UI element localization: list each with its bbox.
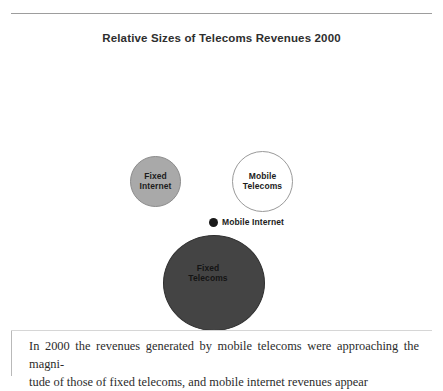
- figure-caption: In 2000 the revenues generated by mobile…: [29, 337, 419, 391]
- bubble-label-line: Telecoms: [188, 273, 227, 283]
- caption-line: In 2000 the revenues generated by mobile…: [29, 339, 419, 371]
- bubble-label-fixed-telecoms: Fixed Telecoms: [188, 264, 227, 283]
- caption-line: tude of those of fixed telecoms, and mob…: [29, 373, 419, 391]
- chart-frame: Relative Sizes of Telecoms Revenues 2000…: [11, 13, 432, 331]
- bubble-label-line: Fixed: [144, 171, 167, 181]
- bubble-label-line: Telecoms: [243, 181, 282, 191]
- bubble-mobile-internet: [209, 218, 218, 227]
- bubble-label-line: Mobile: [249, 171, 277, 181]
- bubble-fixed-internet: Fixed Internet: [130, 156, 181, 207]
- bubble-plot-area: Fixed Internet Mobile Telecoms Mobile In…: [11, 14, 432, 332]
- bubble-mobile-telecoms: Mobile Telecoms: [232, 151, 293, 212]
- bubble-label-fixed-internet: Fixed Internet: [140, 172, 172, 191]
- bubble-label-mobile-internet: Mobile Internet: [222, 217, 284, 227]
- bubble-label-line: Fixed: [197, 263, 220, 273]
- bubble-label-line: Internet: [140, 181, 172, 191]
- bubble-fixed-telecoms: Fixed Telecoms: [163, 235, 265, 331]
- bubble-label-mobile-telecoms: Mobile Telecoms: [243, 172, 282, 191]
